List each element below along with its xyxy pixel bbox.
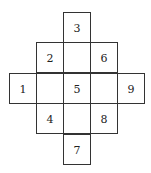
cell-empty (90, 73, 118, 104)
cell-label: 2 (37, 52, 63, 63)
cell-6: 6 (90, 42, 118, 73)
cell-label: 9 (118, 83, 144, 94)
cell-label: 3 (64, 22, 90, 33)
cell-label: 1 (10, 83, 36, 94)
cell-2: 2 (36, 42, 64, 73)
cell-label: 6 (91, 52, 117, 63)
cell-8: 8 (90, 103, 118, 134)
cell-empty (63, 103, 91, 134)
cell-7: 7 (63, 134, 91, 165)
cell-3: 3 (63, 12, 91, 43)
cell-label: 4 (37, 113, 63, 124)
cell-empty (36, 73, 64, 104)
cell-5: 5 (63, 73, 91, 104)
cell-4: 4 (36, 103, 64, 134)
cell-empty (63, 42, 91, 73)
cell-label: 5 (64, 83, 90, 94)
cell-9: 9 (117, 73, 145, 104)
cell-label: 8 (91, 113, 117, 124)
cell-1: 1 (9, 73, 37, 104)
cell-label: 7 (64, 144, 90, 155)
